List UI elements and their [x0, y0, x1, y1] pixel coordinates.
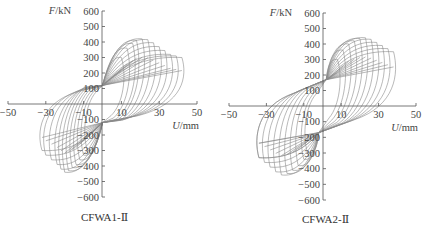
hysteresis-cycle: [262, 45, 384, 162]
chart-cfwa1: −50−30−10103050600500400300200100−100−20…: [0, 0, 211, 231]
y-tick-label: 600: [304, 8, 320, 19]
x-tick-label: −30: [258, 109, 274, 120]
y-tick-label: −300: [298, 148, 320, 159]
y-tick-label: −500: [77, 176, 99, 187]
hysteresis-cycle: [257, 48, 390, 157]
axes: [229, 13, 416, 200]
y-tick-label: −100: [77, 114, 99, 125]
x-tick-label: 30: [154, 107, 165, 118]
y-tick-label: −500: [298, 179, 320, 190]
y-tick-label: 400: [304, 39, 320, 50]
y-tick-label: −600: [77, 192, 99, 203]
y-tick-label: −600: [298, 195, 320, 206]
y-axis-title: F/kN: [269, 7, 293, 18]
chart-caption: CFWA2-Ⅱ: [302, 213, 349, 226]
x-tick-label: −30: [38, 107, 54, 118]
y-tick-label: −200: [298, 132, 320, 143]
y-tick-label: 300: [304, 54, 320, 65]
chart-cfwa2: −50−30−10103050600500400300200100−100−20…: [211, 0, 423, 231]
hysteresis-plot-cfwa2: −50−30−10103050600500400300200100−100−20…: [211, 0, 423, 231]
y-tick-label: −200: [77, 130, 99, 141]
x-tick-label: 50: [411, 109, 422, 120]
x-tick-label: −50: [0, 107, 16, 118]
y-tick-label: −400: [298, 163, 320, 174]
y-tick-label: 100: [83, 83, 99, 94]
hysteresis-plot-cfwa1: −50−30−10103050600500400300200100−100−20…: [0, 0, 211, 231]
x-tick-label: −50: [221, 109, 237, 120]
x-axis-title: U/mm: [172, 120, 199, 131]
y-tick-label: 600: [83, 6, 99, 17]
y-tick-label: 200: [83, 68, 99, 79]
y-tick-label: 200: [304, 70, 320, 81]
x-tick-label: 30: [373, 109, 384, 120]
x-axis-title: U/mm: [391, 122, 418, 133]
y-tick-label: −400: [77, 161, 99, 172]
x-tick-label: 10: [336, 109, 347, 120]
y-tick-label: 500: [304, 23, 320, 34]
y-tick-label: 400: [83, 37, 99, 48]
y-axis-title: F/kN: [48, 5, 72, 16]
y-tick-label: −100: [298, 116, 320, 127]
hysteresis-cycle: [44, 56, 179, 155]
y-tick-label: 500: [83, 21, 99, 32]
x-tick-label: 50: [192, 107, 203, 118]
y-tick-label: −300: [77, 145, 99, 156]
y-tick-label: 100: [304, 85, 320, 96]
chart-caption: CFWA1-Ⅱ: [81, 211, 128, 224]
axes: [8, 11, 197, 197]
hysteresis-cycle: [274, 39, 374, 172]
hysteresis-loops: [40, 39, 184, 173]
y-tick-label: 300: [83, 52, 99, 63]
x-tick-label: 10: [116, 107, 127, 118]
